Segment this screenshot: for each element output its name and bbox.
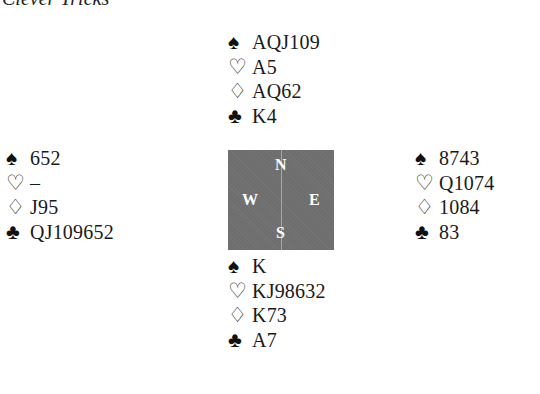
east-hand: ♠ 8743 ♡ Q1074 ♢ 1084 ♣ 83 [415,146,494,244]
heart-icon: ♡ [6,171,30,196]
north-spades-cards: AQJ109 [252,30,320,55]
west-spades-cards: 652 [30,146,61,171]
south-spades: ♠ K [228,254,326,279]
south-clubs: ♣ A7 [228,328,326,353]
diamond-icon: ♢ [6,195,30,220]
west-hearts-cards: – [30,171,40,196]
diamond-icon: ♢ [228,79,252,104]
section-title: Clever Tricks [2,0,109,10]
west-clubs: ♣ QJ109652 [6,220,114,245]
south-hearts-cards: KJ98632 [252,279,326,304]
north-diamonds: ♢ AQ62 [228,79,320,104]
club-icon: ♣ [228,104,252,129]
east-spades-cards: 8743 [439,146,480,171]
south-clubs-cards: A7 [252,328,277,353]
spade-icon: ♠ [6,146,30,171]
south-hand: ♠ K ♡ KJ98632 ♢ K73 ♣ A7 [228,254,326,352]
compass-south-label: S [276,224,285,242]
spade-icon: ♠ [415,146,439,171]
spade-icon: ♠ [228,254,252,279]
spade-icon: ♠ [228,30,252,55]
club-icon: ♣ [6,220,30,245]
south-diamonds: ♢ K73 [228,303,326,328]
diamond-icon: ♢ [415,195,439,220]
west-diamonds: ♢ J95 [6,195,114,220]
east-diamonds: ♢ 1084 [415,195,494,220]
heart-icon: ♡ [415,171,439,196]
north-clubs-cards: K4 [252,104,277,129]
diamond-icon: ♢ [228,303,252,328]
south-diamonds-cards: K73 [252,303,287,328]
west-clubs-cards: QJ109652 [30,220,114,245]
club-icon: ♣ [415,220,439,245]
north-hand: ♠ AQJ109 ♡ A5 ♢ AQ62 ♣ K4 [228,30,320,128]
north-diamonds-cards: AQ62 [252,79,302,104]
compass-north-label: N [275,156,287,174]
west-hand: ♠ 652 ♡ – ♢ J95 ♣ QJ109652 [6,146,114,244]
compass-box: N W E S [228,150,334,250]
heart-icon: ♡ [228,279,252,304]
east-spades: ♠ 8743 [415,146,494,171]
south-spades-cards: K [252,254,267,279]
east-clubs-cards: 83 [439,220,459,245]
west-diamonds-cards: J95 [30,195,58,220]
east-hearts-cards: Q1074 [439,171,494,196]
north-hearts-cards: A5 [252,55,277,80]
club-icon: ♣ [228,328,252,353]
compass-east-label: E [309,191,320,209]
heart-icon: ♡ [228,55,252,80]
compass-west-label: W [242,191,258,209]
east-clubs: ♣ 83 [415,220,494,245]
north-hearts: ♡ A5 [228,55,320,80]
north-clubs: ♣ K4 [228,104,320,129]
south-hearts: ♡ KJ98632 [228,279,326,304]
north-spades: ♠ AQJ109 [228,30,320,55]
east-hearts: ♡ Q1074 [415,171,494,196]
east-diamonds-cards: 1084 [439,195,480,220]
west-hearts: ♡ – [6,171,114,196]
west-spades: ♠ 652 [6,146,114,171]
